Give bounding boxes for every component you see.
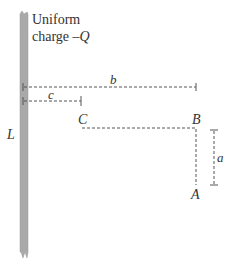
rod-description-line1: Uniform <box>32 12 80 27</box>
point-c-label: C <box>78 112 88 127</box>
rod-length-label: L <box>6 127 15 142</box>
dimension-c-label: c <box>48 87 54 102</box>
point-a-label: A <box>190 187 200 202</box>
dimension-b-label: b <box>110 72 117 87</box>
charged-rod-diagram: Uniform charge –Q L b c C B A a <box>0 0 231 267</box>
charged-rod <box>20 11 28 258</box>
dimension-a-label: a <box>217 150 224 165</box>
point-b-label: B <box>192 112 201 127</box>
charge-symbol: –Q <box>72 29 90 44</box>
charge-label: charge <box>32 29 73 44</box>
rod-description-line2: charge –Q <box>32 29 90 44</box>
